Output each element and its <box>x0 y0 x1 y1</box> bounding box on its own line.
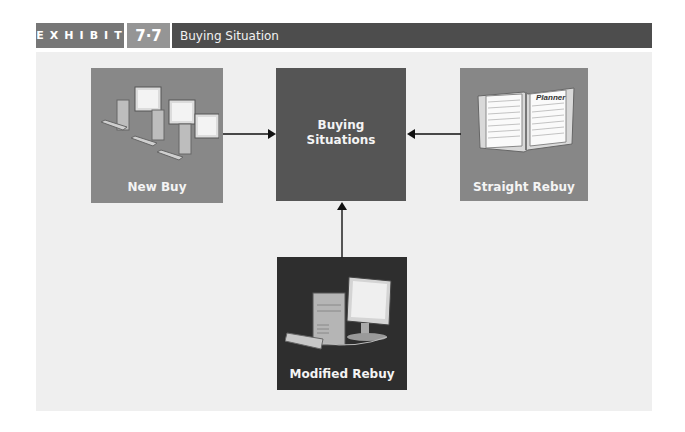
node-label: New Buy <box>91 180 223 194</box>
arrow-modified-rebuy-to-center <box>336 201 348 258</box>
arrow-new-buy-to-center <box>223 128 277 140</box>
node-buying-situations: Buying Situations <box>276 68 406 201</box>
node-new-buy: New Buy <box>91 68 223 203</box>
node-label: Modified Rebuy <box>277 367 407 381</box>
svg-text:Planner: Planner <box>536 93 566 102</box>
planner-notebook-icon: Planner <box>476 86 576 156</box>
node-straight-rebuy: Planner Straight Rebuy <box>460 68 588 201</box>
label-line-2: Situations <box>276 133 406 148</box>
node-label: Buying Situations <box>276 118 406 148</box>
label-line-1: Buying <box>276 118 406 133</box>
exhibit-number: 7·7 <box>127 23 170 48</box>
node-modified-rebuy: Modified Rebuy <box>277 257 407 390</box>
arrow-straight-rebuy-to-center <box>406 128 461 140</box>
desktop-computer-icon <box>285 275 400 360</box>
computer-network-icon <box>97 82 219 174</box>
exhibit-title: Buying Situation <box>172 23 652 48</box>
node-label: Straight Rebuy <box>460 180 588 194</box>
exhibit-label: EXHIBIT <box>36 23 124 48</box>
